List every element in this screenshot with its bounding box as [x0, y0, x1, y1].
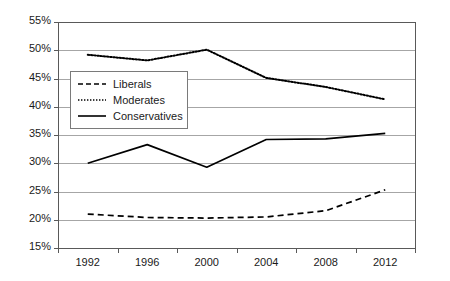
series-line-conservatives — [88, 133, 386, 167]
x-tick-label: 2000 — [177, 256, 237, 268]
y-tick-label: 35% — [29, 127, 51, 139]
legend-label-liberals: Liberals — [113, 78, 152, 90]
legend-label-conservatives: Conservatives — [113, 110, 183, 122]
y-tick-label: 20% — [29, 212, 51, 224]
y-tick-label: 15% — [29, 240, 51, 252]
x-tick-label: 2008 — [296, 256, 356, 268]
x-tick-label: 2012 — [355, 256, 415, 268]
legend-swatch-liberals — [77, 79, 107, 89]
legend-item: Moderates — [71, 92, 187, 108]
legend-label-moderates: Moderates — [113, 94, 165, 106]
x-tick-label: 1996 — [117, 256, 177, 268]
y-axis-ticks — [54, 23, 58, 249]
legend-item: Conservatives — [71, 108, 187, 124]
legend-swatch-conservatives — [77, 111, 107, 121]
chart-plot-area — [0, 0, 450, 281]
y-tick-label: 55% — [29, 14, 51, 26]
legend-swatch-moderates — [77, 95, 107, 105]
series-line-liberals — [88, 190, 386, 218]
y-tick-label: 25% — [29, 184, 51, 196]
x-tick-label: 2004 — [236, 256, 296, 268]
y-tick-label: 50% — [29, 42, 51, 54]
legend-item: Liberals — [71, 76, 187, 92]
line-chart: 15%20%25%30%35%40%45%50%55% 199219962000… — [0, 0, 450, 281]
x-tick-label: 1992 — [58, 256, 118, 268]
y-tick-label: 40% — [29, 99, 51, 111]
chart-legend: Liberals Moderates Conservatives — [70, 71, 188, 129]
y-tick-label: 45% — [29, 71, 51, 83]
y-tick-label: 30% — [29, 155, 51, 167]
